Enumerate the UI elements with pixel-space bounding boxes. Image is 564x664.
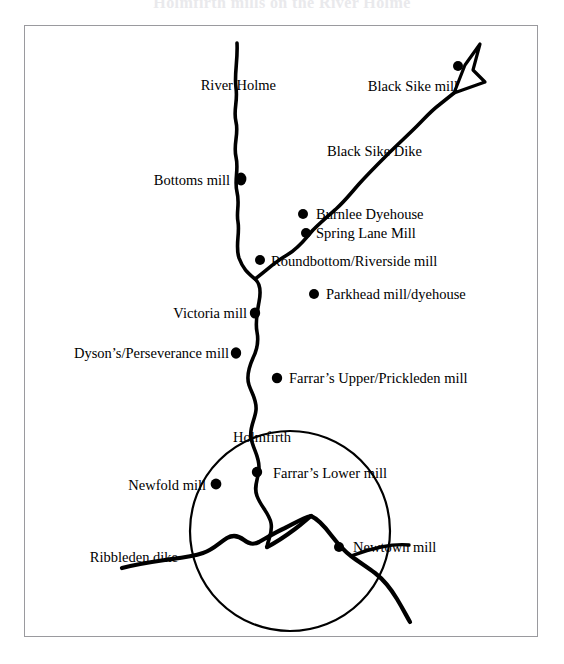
dot-farrars-lower-mill: [252, 467, 262, 477]
label-bottoms-mill: Bottoms mill: [154, 173, 230, 188]
label-newfold-mill: Newfold mill: [128, 478, 206, 493]
dot-burnlee-dyehouse: [298, 209, 308, 219]
label-black-sike-dike: Black Sike Dike: [327, 144, 422, 159]
dot-spring-lane-mill: [301, 228, 311, 238]
map-frame: River Holme Black Sike mill Black Sike D…: [24, 25, 538, 637]
dot-farrars-upper-prickleden: [272, 373, 282, 383]
river-holme-lower-path: [267, 516, 410, 622]
black-sike-dike-path: [255, 93, 454, 279]
dot-black-sike-mill: [453, 61, 463, 71]
dot-bottoms-mill: [236, 173, 247, 186]
dot-victoria-mill: [250, 307, 260, 318]
label-dysons-perseverance-mill: Dyson’s/Perseverance mill: [74, 346, 229, 361]
label-black-sike-mill: Black Sike mill: [368, 79, 458, 94]
label-farrars-upper-prickleden-mill: Farrar’s Upper/Prickleden mill: [289, 371, 468, 386]
label-parkhead-mill-dyehouse: Parkhead mill/dyehouse: [326, 287, 466, 302]
figure-page: Holmfirth mills on the River Holme: [0, 0, 564, 664]
label-holmfirth: Holmfirth: [233, 430, 291, 445]
clipped-title-fragment: Holmfirth mills on the River Holme: [0, 0, 564, 12]
label-river-holme: River Holme: [201, 78, 276, 93]
label-roundbottom-riverside-mill: Roundbottom/Riverside mill: [271, 254, 437, 269]
dot-newtown-mill: [334, 542, 344, 552]
dot-newfold-mill: [211, 479, 222, 490]
dot-dysons-perseverance-mill: [231, 347, 241, 359]
label-newtown-mill: Newtown mill: [353, 540, 436, 555]
label-ribbleden-dike: Ribbleden dike: [90, 550, 178, 565]
map-drawing: [25, 26, 539, 638]
label-farrars-lower-mill: Farrar’s Lower mill: [273, 466, 387, 481]
dot-roundbottom-riverside-mill: [255, 255, 265, 265]
label-victoria-mill: Victoria mill: [173, 306, 247, 321]
dot-parkhead-mill-dyehouse: [309, 289, 319, 299]
label-burnlee-dyehouse: Burnlee Dyehouse: [316, 207, 424, 222]
label-spring-lane-mill: Spring Lane Mill: [316, 226, 416, 241]
